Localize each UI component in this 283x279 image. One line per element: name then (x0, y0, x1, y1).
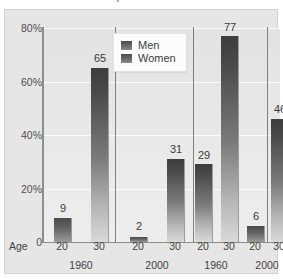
legend-item-women: Women (121, 53, 176, 65)
bar-women-1960-age30 (221, 36, 239, 242)
x-tick-3: 20 (132, 240, 144, 252)
y-axis-line (42, 27, 44, 243)
bar-women-2000-age30 (271, 119, 283, 242)
bar-label-men-2000-age30: 31 (170, 143, 182, 155)
legend-swatch-icon-men (121, 41, 132, 50)
bar-women-1960-age20 (195, 164, 213, 242)
gridline-80 (43, 28, 280, 29)
legend-item-men: Men (121, 40, 176, 52)
gridline-60 (43, 82, 280, 83)
x-tick-8: 30 (273, 240, 283, 252)
x-axis-labels: Age 20 30 20 30 20 30 20 30 1960 2000 19… (0, 236, 283, 279)
y-tick-60: 60% (8, 76, 42, 88)
x-group-label-3: 1960 (204, 259, 227, 271)
legend-label-men: Men (138, 40, 159, 52)
bar-label-women-2000-age20: 6 (253, 210, 259, 222)
x-tick-7: 20 (249, 240, 261, 252)
bar-label-women-1960-age20: 29 (198, 149, 210, 161)
x-group-label-2: 2000 (145, 259, 168, 271)
bar-label-men-1960-age30: 65 (94, 52, 106, 64)
x-group-label-1: 1960 (69, 259, 92, 271)
y-tick-40: 40% (8, 129, 42, 141)
x-tick-4: 30 (169, 240, 181, 252)
y-tick-20: 20% (8, 183, 42, 195)
bar-label-women-2000-age30: 46 (274, 103, 283, 115)
bar-men-1960-age30 (91, 68, 109, 242)
chart-title: ...who completed the transition (0, 0, 283, 2)
group-separator-2 (193, 27, 194, 243)
x-tick-5: 20 (197, 240, 209, 252)
legend: Men Women (113, 33, 187, 72)
x-tick-6: 30 (223, 240, 235, 252)
gridline-40 (43, 135, 280, 136)
y-tick-80: 80% (8, 22, 42, 34)
bar-label-men-2000-age20: 2 (136, 220, 142, 232)
x-tick-2: 30 (93, 240, 105, 252)
x-tick-1: 20 (56, 240, 68, 252)
chart-frame: 80% 60% 40% 20% 0 9 65 (4, 9, 278, 274)
legend-swatch-icon-women (121, 54, 132, 63)
group-separator-3 (267, 27, 268, 243)
legend-label-women: Women (138, 53, 176, 65)
bar-men-2000-age30 (167, 159, 185, 242)
x-axis-age-label: Age (9, 240, 28, 252)
bar-label-women-1960-age30: 77 (224, 21, 236, 33)
gridline-20 (43, 189, 280, 190)
bar-label-men-1960-age20: 9 (60, 202, 66, 214)
bar-chart-figure: ...who completed the transition 80% 60% … (0, 0, 283, 279)
x-group-label-4: 2000 (255, 259, 278, 271)
